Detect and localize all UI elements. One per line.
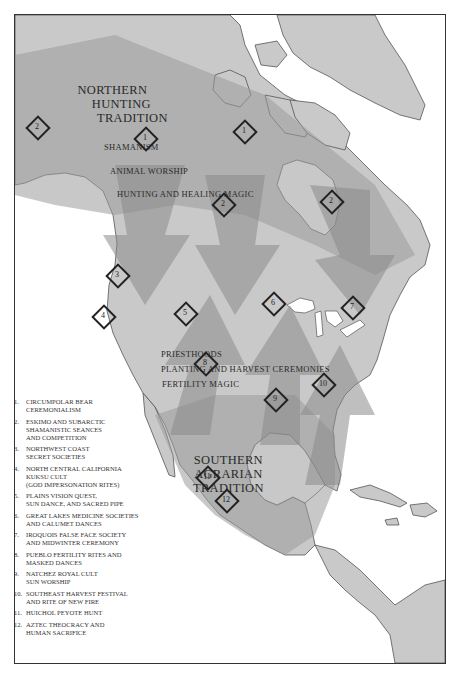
legend-line: SOUTHEAST HARVEST FESTIVAL xyxy=(26,590,164,598)
legend-item: 3.NORTHWEST COASTSECRET SOCIETIES xyxy=(14,445,164,461)
northern-tradition-label: NORTHERN HUNTING TRADITION xyxy=(57,83,168,125)
legend-line: (GOD IMPERSONATION RITES) xyxy=(26,481,164,489)
legend-text: HUICHOL PEYOTE HUNT xyxy=(26,609,164,617)
site-marker-1: 1 xyxy=(134,127,156,149)
legend-number: 6. xyxy=(14,512,26,528)
legend-text: ESKIMO AND SUBARCTICSHAMANISTIC SEANCESA… xyxy=(26,418,164,442)
legend-text: GREAT LAKES MEDICINE SOCIETIESAND CALUME… xyxy=(26,512,164,528)
legend-line: ESKIMO AND SUBARCTIC xyxy=(26,418,164,426)
landmass-central-america xyxy=(315,545,445,663)
landmass-caribbean xyxy=(350,485,437,525)
legend-item: 7.IROQUOIS FALSE FACE SOCIETYAND MIDWINT… xyxy=(14,531,164,547)
legend-line: SECRET SOCIETIES xyxy=(26,453,164,461)
legend-line: NATCHEZ ROYAL CULT xyxy=(26,570,164,578)
legend-item: 10.SOUTHEAST HARVEST FESTIVALAND RITE OF… xyxy=(14,590,164,606)
site-marker-9: 9 xyxy=(264,388,286,410)
legend-number: 8. xyxy=(14,551,26,567)
site-marker-1: 1 xyxy=(233,120,255,142)
marker-number: 1 xyxy=(134,127,156,149)
legend-item: 4.NORTH CENTRAL CALIFORNIAKUKSU CULT(GOD… xyxy=(14,465,164,489)
legend-line: PUEBLO FERTILITY RITES AND xyxy=(26,551,164,559)
legend-item: 1.CIRCUMPOLAR BEARCEREMONIALISM xyxy=(14,398,164,414)
site-marker-5: 5 xyxy=(174,302,196,324)
theme-fertility-magic: FERTILITY MAGIC xyxy=(162,379,239,389)
legend-line: IROQUOIS FALSE FACE SOCIETY xyxy=(26,531,164,539)
site-marker-2: 2 xyxy=(26,116,48,138)
legend-line: NORTHWEST COAST xyxy=(26,445,164,453)
site-marker-7: 7 xyxy=(341,296,363,318)
legend-text: CIRCUMPOLAR BEARCEREMONIALISM xyxy=(26,398,164,414)
legend-text: AZTEC THEOCRACY ANDHUMAN SACRIFICE xyxy=(26,621,164,637)
site-marker-3: 3 xyxy=(106,264,128,286)
marker-number: 7 xyxy=(341,296,363,318)
theme-planting-harvest: PLANTING AND HARVEST CEREMONIES xyxy=(161,364,330,374)
marker-number: 2 xyxy=(320,190,342,212)
legend-line: MASKED DANCES xyxy=(26,559,164,567)
legend-number: 10. xyxy=(14,590,26,606)
marker-number: 2 xyxy=(212,193,234,215)
site-marker-2: 2 xyxy=(212,193,234,215)
legend-text: PUEBLO FERTILITY RITES ANDMASKED DANCES xyxy=(26,551,164,567)
marker-number: 5 xyxy=(174,302,196,324)
legend-number: 9. xyxy=(14,570,26,586)
marker-number: 12 xyxy=(215,489,237,511)
legend-line: AND RITE OF NEW FIRE xyxy=(26,598,164,606)
legend-number: 5. xyxy=(14,492,26,508)
legend-number: 2. xyxy=(14,418,26,442)
legend-line: HUMAN SACRIFICE xyxy=(26,629,164,637)
legend-line: AND COMPETITION xyxy=(26,434,164,442)
legend-text: PLAINS VISION QUEST,SUN DANCE, AND SACRE… xyxy=(26,492,164,508)
legend-text: SOUTHEAST HARVEST FESTIVALAND RITE OF NE… xyxy=(26,590,164,606)
legend-number: 11. xyxy=(14,609,26,617)
site-marker-12: 12 xyxy=(215,489,237,511)
legend-text: NORTHWEST COASTSECRET SOCIETIES xyxy=(26,445,164,461)
site-marker-4: 4 xyxy=(92,305,114,327)
legend-line: AZTEC THEOCRACY AND xyxy=(26,621,164,629)
legend-item: 6.GREAT LAKES MEDICINE SOCIETIESAND CALU… xyxy=(14,512,164,528)
legend-number: 3. xyxy=(14,445,26,461)
legend-number: 1. xyxy=(14,398,26,414)
legend-line: AND CALUMET DANCES xyxy=(26,520,164,528)
legend-text: NORTH CENTRAL CALIFORNIAKUKSU CULT(GOD I… xyxy=(26,465,164,489)
legend-item: 5.PLAINS VISION QUEST,SUN DANCE, AND SAC… xyxy=(14,492,164,508)
marker-number: 10 xyxy=(312,373,334,395)
legend-number: 12. xyxy=(14,621,26,637)
marker-number: 6 xyxy=(262,292,284,314)
legend-line: CEREMONIALISM xyxy=(26,406,164,414)
legend-number: 4. xyxy=(14,465,26,489)
marker-number: 8 xyxy=(194,352,216,374)
legend-line: KUKSU CULT xyxy=(26,473,164,481)
marker-number: 9 xyxy=(264,388,286,410)
legend-line: SUN WORSHIP xyxy=(26,578,164,586)
marker-number: 1 xyxy=(233,120,255,142)
legend-line: SUN DANCE, AND SACRED PIPE xyxy=(26,500,164,508)
legend-line: CIRCUMPOLAR BEAR xyxy=(26,398,164,406)
site-marker-11: 11 xyxy=(196,466,218,488)
site-marker-6: 6 xyxy=(262,292,284,314)
legend-item: 12.AZTEC THEOCRACY ANDHUMAN SACRIFICE xyxy=(14,621,164,637)
legend-item: 9.NATCHEZ ROYAL CULTSUN WORSHIP xyxy=(14,570,164,586)
marker-number: 2 xyxy=(26,116,48,138)
site-marker-2: 2 xyxy=(320,190,342,212)
legend-text: IROQUOIS FALSE FACE SOCIETYAND MIDWINTER… xyxy=(26,531,164,547)
legend-text: NATCHEZ ROYAL CULTSUN WORSHIP xyxy=(26,570,164,586)
legend-item: 2.ESKIMO AND SUBARCTICSHAMANISTIC SEANCE… xyxy=(14,418,164,442)
site-marker-8: 8 xyxy=(194,352,216,374)
theme-animal-worship: ANIMAL WORSHIP xyxy=(110,166,188,176)
legend-item: 11.HUICHOL PEYOTE HUNT xyxy=(14,609,164,617)
marker-number: 3 xyxy=(106,264,128,286)
legend-line: GREAT LAKES MEDICINE SOCIETIES xyxy=(26,512,164,520)
marker-number: 4 xyxy=(92,305,114,327)
legend-line: HUICHOL PEYOTE HUNT xyxy=(26,609,164,617)
legend-line: PLAINS VISION QUEST, xyxy=(26,492,164,500)
legend-number: 7. xyxy=(14,531,26,547)
legend-item: 8.PUEBLO FERTILITY RITES ANDMASKED DANCE… xyxy=(14,551,164,567)
legend-line: SHAMANISTIC SEANCES xyxy=(26,426,164,434)
site-marker-10: 10 xyxy=(312,373,334,395)
legend: 1.CIRCUMPOLAR BEARCEREMONIALISM2.ESKIMO … xyxy=(14,398,164,640)
legend-line: NORTH CENTRAL CALIFORNIA xyxy=(26,465,164,473)
legend-line: AND MIDWINTER CEREMONY xyxy=(26,539,164,547)
marker-number: 11 xyxy=(196,466,218,488)
